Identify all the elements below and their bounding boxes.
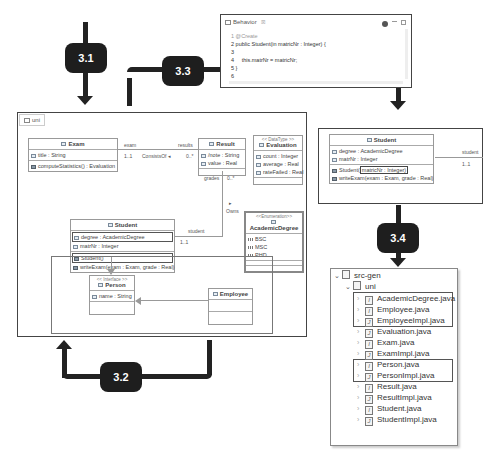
student-detail-op-prefix: Student( xyxy=(339,167,360,173)
flow-connector-3-3-vertical xyxy=(127,78,132,106)
owns-direction-arrow: ▸ xyxy=(229,200,232,206)
tree-file-evaluation[interactable]: ›JEvaluation.java xyxy=(357,326,431,337)
exam-class[interactable]: Exam title : String computeStatistics() … xyxy=(28,138,118,172)
file-label: ResultImpl.java xyxy=(377,393,432,402)
tree-file-studentimpl[interactable]: ›JStudentImpl.java xyxy=(357,414,437,425)
collapse-chevron-icon[interactable]: › xyxy=(357,392,365,403)
evaluation-name: Evaluation xyxy=(266,142,296,148)
exam-role-label: exam xyxy=(124,142,136,148)
collapse-chevron-icon[interactable]: › xyxy=(357,414,365,425)
tree-file-person[interactable]: ›IPerson.java xyxy=(357,359,419,370)
student-detail-op-param-highlight: matricNr : Integer) xyxy=(360,166,408,174)
tree-file-exam[interactable]: ›IExam.java xyxy=(357,337,414,348)
file-label: StudentImpl.java xyxy=(377,415,437,424)
student-detail-class[interactable]: Student degree : AcademicDegree matrNr :… xyxy=(329,134,434,184)
collapse-chevron-icon[interactable]: › xyxy=(357,326,365,337)
code-line-4: 4 this.matrNr = matricNr; xyxy=(231,56,326,64)
attribute-icon xyxy=(332,150,337,154)
class-icon xyxy=(108,223,113,227)
behavior-editor-panel: Behavior ☒ 1 @Create 2 public Student(in… xyxy=(220,14,412,88)
employee-person-generalization xyxy=(139,300,208,301)
student-detail-attr-degree: degree : AcademicDegree xyxy=(339,148,403,154)
tree-node-uni[interactable]: ⌄uni xyxy=(345,281,376,292)
file-label: EmployeeImpl.java xyxy=(377,316,445,325)
tree-file-academicdegree[interactable]: ›IAcademicDegree.java xyxy=(357,293,455,304)
student-multiplicity-label: 1..1 xyxy=(180,239,188,245)
attribute-icon xyxy=(31,154,36,158)
tree-file-examimpl[interactable]: ›JExamImpl.java xyxy=(357,348,429,359)
grades-multiplicity-label: 0..* xyxy=(227,175,235,181)
behavior-tab-title: Behavior xyxy=(233,19,257,25)
step-badge-3-3: 3.3 xyxy=(162,56,204,86)
package-icon xyxy=(353,281,361,290)
exam-multiplicity-label: 1..1 xyxy=(124,153,132,159)
main-diagram-panel: uni Exam title : String computeStatistic… xyxy=(17,112,307,337)
flow-connector-3-2-right xyxy=(207,340,212,375)
tree-file-resultimpl[interactable]: ›JResultImpl.java xyxy=(357,392,432,403)
file-label: Evaluation.java xyxy=(377,327,431,336)
file-label: Employee.java xyxy=(377,305,429,314)
collapse-chevron-icon[interactable]: › xyxy=(357,403,365,414)
result-attr-value: value : Real xyxy=(208,160,237,166)
operation-icon xyxy=(332,177,337,181)
collapse-chevron-icon[interactable]: › xyxy=(357,304,365,315)
file-label: ExamImpl.java xyxy=(377,349,429,358)
package-tab[interactable]: uni xyxy=(19,114,45,126)
collapse-chevron-icon[interactable]: › xyxy=(357,370,365,381)
tree-file-student[interactable]: ›IStudent.java xyxy=(357,403,421,414)
exam-attr-title: title : String xyxy=(38,152,66,158)
code-area[interactable]: 1 @Create 2 public Student(in matricNr :… xyxy=(231,32,326,80)
editor-vertical-scrollbar[interactable] xyxy=(405,29,408,79)
package-icon xyxy=(24,118,30,123)
student-attr-matrnr: matrNr : Integer xyxy=(80,243,119,249)
flow-arrow-behavior-shaft xyxy=(396,88,401,102)
collapse-chevron-icon[interactable]: › xyxy=(357,315,365,326)
grades-role-label: grades xyxy=(204,175,219,181)
collapse-chevron-icon[interactable]: › xyxy=(357,348,365,359)
attribute-icon xyxy=(201,162,206,166)
consistsof-label: ConsistsOf ◂ xyxy=(142,153,171,159)
collapse-chevron-icon[interactable]: › xyxy=(357,337,365,348)
expand-chevron-icon[interactable]: ⌄ xyxy=(345,281,353,292)
datatype-icon xyxy=(259,143,264,147)
maximize-icon[interactable] xyxy=(401,20,406,25)
collapse-chevron-icon[interactable]: › xyxy=(357,359,365,370)
tab-close-icon[interactable]: ☒ xyxy=(261,19,265,25)
employee-name: Employee xyxy=(220,291,248,297)
enumeration-icon xyxy=(271,220,276,224)
file-label: PersonImpl.java xyxy=(377,371,434,380)
flow-connector-3-2-left xyxy=(62,348,67,378)
person-attr-name: name : String xyxy=(99,293,132,299)
minimize-icon[interactable] xyxy=(392,20,397,22)
employee-class[interactable]: Employee xyxy=(208,288,253,325)
attribute-icon xyxy=(256,155,261,159)
tree-file-employee[interactable]: ›IEmployee.java xyxy=(357,304,429,315)
results-role-label: results xyxy=(178,142,193,148)
java-class-icon: J xyxy=(365,417,373,426)
student-attr-degree: degree : AcademicDegree xyxy=(81,234,145,240)
tree-file-personimpl[interactable]: ›JPersonImpl.java xyxy=(357,370,434,381)
flow-arrow-3-2-head xyxy=(56,340,72,349)
code-line-2: 2 public Student(in matricNr : Integer) … xyxy=(231,40,326,48)
attribute-icon xyxy=(92,295,97,299)
step-badge-3-1: 3.1 xyxy=(65,43,107,73)
collapse-chevron-icon[interactable]: › xyxy=(357,381,365,392)
attribute-icon xyxy=(332,158,337,162)
person-interface[interactable]: << Interface >> Person name : String xyxy=(89,275,135,315)
code-line-6: 6 xyxy=(231,72,326,80)
source-folder-icon xyxy=(342,270,350,279)
evaluation-datatype[interactable]: << DataType >> Evaluation count : Intege… xyxy=(253,135,303,185)
constructor-icon xyxy=(332,169,337,173)
file-label: Person.java xyxy=(377,360,419,369)
editor-horizontal-scrollbar[interactable] xyxy=(229,81,403,84)
tree-file-employeeimpl[interactable]: ›JEmployeeImpl.java xyxy=(357,315,445,326)
collapse-chevron-icon[interactable]: › xyxy=(357,293,365,304)
tree-node-src-gen[interactable]: ⌄src-gen xyxy=(334,270,381,281)
file-label: Result.java xyxy=(377,382,417,391)
step-badge-3-2: 3.2 xyxy=(100,362,142,392)
tree-file-result[interactable]: ›IResult.java xyxy=(357,381,417,392)
literal-icon xyxy=(248,246,253,249)
behavior-editor-tab[interactable]: Behavior ☒ xyxy=(225,19,265,25)
package-tab-label: uni xyxy=(32,117,40,123)
expand-chevron-icon[interactable]: ⌄ xyxy=(334,270,342,281)
